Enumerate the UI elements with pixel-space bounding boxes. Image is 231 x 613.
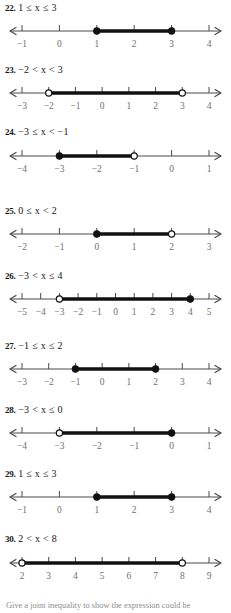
number-line: 23456789 xyxy=(0,552,231,582)
axis-tick-label: 3 xyxy=(180,101,185,111)
endpoint-closed-left xyxy=(93,28,100,35)
axis-tick-label: −2 xyxy=(44,101,54,111)
endpoint-open-right xyxy=(131,153,137,159)
inequality-expression: 1 ≤ x ≤ 3 xyxy=(18,468,57,479)
axis-tick-label: −1 xyxy=(17,505,27,515)
axis-tick-label: −4 xyxy=(17,164,27,174)
exercise-number: 29. xyxy=(5,469,16,479)
axis-tick-label: 3 xyxy=(169,505,174,515)
axis-tick-label: 3 xyxy=(180,377,185,387)
exercise-prompt: 26.−3 < x ≤ 4 xyxy=(5,270,63,282)
inequality-expression: 1 ≤ x ≤ 3 xyxy=(18,2,57,13)
number-line: −5−4−3−2−1012345 xyxy=(0,288,231,318)
number-line: −101234 xyxy=(0,486,231,516)
exercise-number: 23. xyxy=(5,65,16,75)
exercise-prompt: 29.1 ≤ x ≤ 3 xyxy=(5,468,57,480)
exercise-prompt: 27.−1 ≤ x ≤ 2 xyxy=(5,340,63,352)
axis-tick-label: −1 xyxy=(70,101,80,111)
axis-tick-label: 9 xyxy=(207,571,212,581)
inequality-expression: −3 < x ≤ 4 xyxy=(18,270,63,281)
exercise-prompt: 24.−3 ≤ x < −1 xyxy=(5,126,69,138)
number-line: −2−10123 xyxy=(0,223,231,253)
axis-tick-label: −1 xyxy=(70,377,80,387)
exercise-number: 25. xyxy=(5,206,16,216)
inequality-expression: −1 ≤ x ≤ 2 xyxy=(18,340,63,351)
exercise-prompt: 25.0 ≤ x < 2 xyxy=(5,205,57,217)
axis-tick-label: 4 xyxy=(207,101,212,111)
inequality-expression: 0 ≤ x < 2 xyxy=(18,205,57,216)
endpoint-closed-right xyxy=(187,296,194,303)
axis-tick-label: 2 xyxy=(153,101,158,111)
axis-tick-label: 4 xyxy=(207,39,212,49)
axis-tick-label: 1 xyxy=(126,101,131,111)
axis-tick-label: 1 xyxy=(207,441,212,451)
axis-tick-label: −1 xyxy=(92,307,102,317)
exercise-prompt: 22.1 ≤ x ≤ 3 xyxy=(5,2,57,14)
axis-tick-label: 3 xyxy=(207,242,212,252)
axis-tick-label: 0 xyxy=(94,242,99,252)
endpoint-closed-right xyxy=(168,28,175,35)
axis-tick-label: 3 xyxy=(169,307,174,317)
axis-tick-label: −1 xyxy=(17,39,27,49)
axis-tick-label: 0 xyxy=(57,39,62,49)
axis-tick-label: −3 xyxy=(54,164,64,174)
axis-tick-label: 0 xyxy=(169,441,174,451)
axis-tick-label: 4 xyxy=(207,377,212,387)
inequality-expression: 2 < x < 8 xyxy=(18,533,57,544)
axis-tick-label: −2 xyxy=(92,164,102,174)
axis-tick-label: −3 xyxy=(17,377,27,387)
number-line: −3−2−101234 xyxy=(0,358,231,388)
axis-tick-label: 1 xyxy=(126,377,131,387)
endpoint-open-left xyxy=(56,296,62,302)
endpoint-closed-right xyxy=(168,430,175,437)
endpoint-closed-left xyxy=(72,366,79,373)
endpoint-closed-right xyxy=(152,366,159,373)
axis-tick-label: −2 xyxy=(73,307,83,317)
axis-tick-label: 2 xyxy=(20,571,25,581)
axis-tick-label: 1 xyxy=(94,505,99,515)
axis-tick-label: −4 xyxy=(17,441,27,451)
exercise-number: 30. xyxy=(5,534,16,544)
axis-tick-label: 2 xyxy=(151,307,156,317)
axis-tick-label: 0 xyxy=(100,101,105,111)
axis-tick-label: 2 xyxy=(153,377,158,387)
exercise-number: 28. xyxy=(5,405,16,415)
endpoint-closed-right xyxy=(168,494,175,501)
axis-tick-label: 0 xyxy=(100,377,105,387)
axis-tick-label: 2 xyxy=(132,39,137,49)
exercise-prompt: 30.2 < x < 8 xyxy=(5,533,57,545)
axis-tick-label: 6 xyxy=(126,571,131,581)
axis-tick-label: −2 xyxy=(92,441,102,451)
endpoint-closed-left xyxy=(93,231,100,238)
endpoint-closed-left xyxy=(56,153,63,160)
axis-tick-label: 2 xyxy=(132,505,137,515)
axis-tick-label: −4 xyxy=(36,307,46,317)
axis-tick-label: 3 xyxy=(46,571,51,581)
axis-tick-label: 4 xyxy=(207,505,212,515)
axis-tick-label: 2 xyxy=(169,242,174,252)
axis-tick-label: −3 xyxy=(54,307,64,317)
axis-tick-label: 0 xyxy=(57,505,62,515)
endpoint-open-left xyxy=(19,560,25,566)
axis-tick-label: 3 xyxy=(169,39,174,49)
axis-tick-label: 5 xyxy=(100,571,105,581)
exercise-number: 22. xyxy=(5,3,16,13)
endpoint-open-right xyxy=(179,560,185,566)
endpoint-closed-left xyxy=(93,494,100,501)
footnote-caption: Give a joint inequality to show the expr… xyxy=(6,601,228,611)
exercise-number: 27. xyxy=(5,341,16,351)
axis-tick-label: −5 xyxy=(17,307,27,317)
axis-tick-label: 1 xyxy=(94,39,99,49)
endpoint-open-right xyxy=(169,231,175,237)
axis-tick-label: −3 xyxy=(54,441,64,451)
endpoint-open-left xyxy=(56,430,62,436)
endpoint-open-right xyxy=(179,90,185,96)
exercise-number: 24. xyxy=(5,127,16,137)
axis-tick-label: 0 xyxy=(169,164,174,174)
axis-tick-label: −2 xyxy=(17,242,27,252)
inequality-expression: −2 < x < 3 xyxy=(18,64,63,75)
axis-tick-label: −1 xyxy=(54,242,64,252)
axis-tick-label: −2 xyxy=(44,377,54,387)
exercise-prompt: 28.−3 < x ≤ 0 xyxy=(5,404,63,416)
axis-tick-label: 7 xyxy=(153,571,158,581)
